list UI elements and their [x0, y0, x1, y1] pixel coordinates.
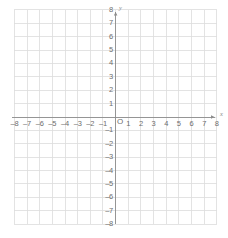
x-tick-label: 5: [177, 120, 181, 128]
x-tick-label: 4: [164, 120, 168, 128]
x-tick-label: –7: [23, 120, 31, 128]
y-tick-label: 7: [109, 20, 113, 28]
x-tick-label: –3: [74, 120, 82, 128]
y-tick-label: –2: [105, 140, 113, 148]
grid-canvas: [0, 0, 228, 238]
x-tick-label: 1: [126, 120, 130, 128]
y-axis-label: y: [119, 5, 122, 12]
x-axis-label: x: [220, 111, 223, 118]
origin-label: O: [117, 118, 123, 126]
y-tick-label: –4: [105, 167, 113, 175]
x-tick-label: 7: [202, 120, 206, 128]
x-tick-label: –5: [48, 120, 56, 128]
coordinate-plane-figure: –8–7–6–5–4–3–2–112345678 87654321–1–2–3–…: [0, 0, 228, 238]
y-tick-label: –5: [105, 180, 113, 188]
x-tick-label: –8: [10, 120, 18, 128]
x-tick-label: –2: [86, 120, 94, 128]
y-tick-label: –3: [105, 153, 113, 161]
y-tick-label: 8: [109, 6, 113, 14]
y-tick-label: –1: [105, 127, 113, 135]
x-tick-label: 6: [190, 120, 194, 128]
y-tick-label: 1: [109, 100, 113, 108]
y-tick-label: 4: [109, 60, 113, 68]
y-tick-label: –6: [105, 194, 113, 202]
y-tick-label: –8: [105, 220, 113, 228]
y-tick-label: 6: [109, 33, 113, 41]
x-tick-label: 8: [215, 120, 219, 128]
y-tick-label: –7: [105, 207, 113, 215]
x-tick-label: 2: [139, 120, 143, 128]
x-tick-label: 3: [152, 120, 156, 128]
y-tick-label: 3: [109, 73, 113, 81]
x-tick-label: –4: [61, 120, 69, 128]
y-tick-label: 2: [109, 86, 113, 94]
x-tick-label: –6: [36, 120, 44, 128]
y-tick-label: 5: [109, 46, 113, 54]
